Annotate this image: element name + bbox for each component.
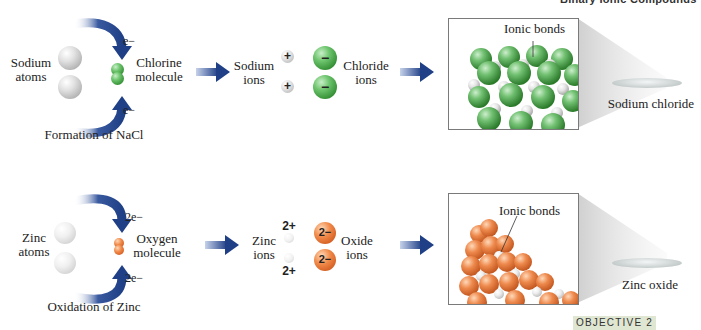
ionic-bonds-label: Ionic bonds	[499, 204, 560, 218]
objective-tag: OBJECTIVE 2	[573, 316, 656, 330]
electron-bottom: e−	[123, 103, 135, 117]
zinc-atom	[54, 252, 76, 274]
oxygen-atom	[114, 245, 124, 255]
oxide-ions-label: Oxideions	[336, 234, 378, 262]
oxidation-caption: Oxidation of Zinc	[34, 300, 154, 314]
electron-top: e−	[123, 34, 135, 48]
section-header: Binary Ionic Compounds	[560, 0, 697, 5]
sodium-chloride-sample	[612, 78, 682, 88]
zinc-atoms-label: Zincatoms	[14, 231, 54, 259]
zinc-ion	[284, 233, 294, 243]
magnification-beam	[577, 18, 677, 133]
zno-lattice-panel: Ionic bonds	[448, 193, 579, 305]
chlorine-molecule-label: Chlorinemolecule	[130, 56, 188, 84]
right-arrow-icon	[196, 62, 232, 82]
zinc-ions-label: Zincions	[248, 234, 280, 262]
zinc-oxide-label: Zinc oxide	[610, 278, 690, 292]
right-arrow-icon	[400, 62, 436, 82]
electron-bottom: 2e−	[125, 271, 143, 285]
zinc-ion	[284, 253, 294, 263]
sodium-atom	[58, 46, 82, 70]
sodium-ions-label: Sodiumions	[231, 59, 277, 87]
chlorine-atom	[111, 72, 124, 85]
sodium-atom	[58, 75, 82, 99]
right-arrow-icon	[400, 235, 436, 255]
formation-caption: Formation of NaCl	[34, 128, 154, 142]
electron-top: 2e−	[125, 210, 143, 224]
ionic-bonds-label: Ionic bonds	[504, 22, 565, 36]
right-arrow-icon	[205, 235, 241, 255]
nacl-lattice-panel: Ionic bonds	[448, 18, 579, 130]
oxygen-molecule-label: Oxygenmolecule	[130, 232, 184, 260]
sodium-atoms-label: Sodiumatoms	[6, 56, 56, 84]
chloride-ions-label: Chlorideions	[338, 59, 394, 87]
zinc-oxide-sample	[612, 258, 682, 268]
sodium-chloride-label: Sodium chloride	[602, 97, 700, 111]
zinc-atom	[54, 222, 76, 244]
